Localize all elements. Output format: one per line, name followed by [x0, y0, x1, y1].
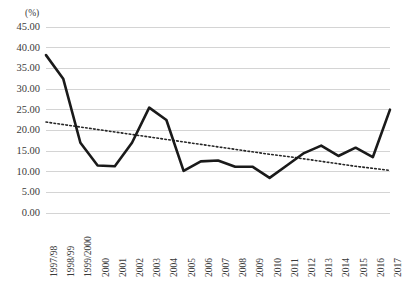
x-axis-tick-label: 2007: [222, 258, 232, 277]
x-axis-tick-label: 2005: [188, 258, 198, 277]
x-axis-tick-label: 2017: [394, 258, 402, 277]
y-axis-tick-label: 10.00: [0, 166, 40, 177]
y-axis-tick-label: 0.00: [0, 208, 40, 219]
x-axis-tick-label: 1999/2000: [84, 236, 94, 277]
x-axis-tick-label: 2010: [274, 258, 284, 277]
x-axis-tick-label: 2016: [377, 258, 387, 277]
x-axis-tick-label: 2004: [170, 258, 180, 277]
x-axis-tick-label: 2001: [119, 258, 129, 277]
x-axis-tick-label: 2000: [102, 258, 112, 277]
x-axis-tick-label: 2011: [291, 258, 301, 277]
y-axis-tick-label: 35.00: [0, 63, 40, 74]
y-axis-tick-label: 15.00: [0, 146, 40, 157]
x-axis-tick-label: 2009: [256, 258, 266, 277]
data-line-group: [46, 55, 390, 178]
y-axis-tick-label: 5.00: [0, 187, 40, 198]
chart-container: (%) 0.005.0010.0015.0020.0025.0030.0035.…: [0, 0, 402, 285]
y-axis-tick-label: 20.00: [0, 125, 40, 136]
trend-line-group: [46, 122, 390, 170]
x-axis-tick-label: 2002: [136, 258, 146, 277]
y-axis-tick-label: 25.00: [0, 104, 40, 115]
x-axis-tick-label: 2003: [153, 258, 163, 277]
y-axis-tick-label: 45.00: [0, 22, 40, 33]
x-axis-tick-label: 1997/98: [50, 246, 60, 277]
x-axis-tick-label: 2008: [239, 258, 249, 277]
x-axis-tick-label: 2013: [325, 258, 335, 277]
x-axis-tick-label: 2012: [308, 258, 318, 277]
y-axis-tick-label: 30.00: [0, 84, 40, 95]
line-chart-plot: [0, 0, 402, 285]
data-line: [46, 55, 390, 178]
trend-line: [46, 122, 390, 170]
gridlines: [46, 27, 390, 213]
x-axis-tick-label: 2006: [205, 258, 215, 277]
x-axis-tick-label: 2015: [360, 258, 370, 277]
x-axis-tick-label: 2014: [342, 258, 352, 277]
x-axis-tick-label: 1998/99: [67, 246, 77, 277]
y-axis-tick-label: 40.00: [0, 42, 40, 53]
